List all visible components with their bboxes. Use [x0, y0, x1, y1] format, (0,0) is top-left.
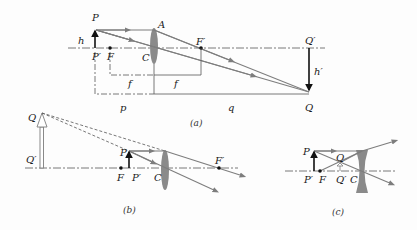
label-a: A: [157, 19, 165, 30]
label-f: F: [106, 51, 115, 62]
label-q-prime: Q′: [305, 35, 316, 46]
diagram-canvas: P h P′ F C A F′ Q′ h′ Q f f p q (a): [0, 0, 417, 230]
label-p: P: [91, 12, 99, 23]
virtual-rays-b: [42, 113, 165, 151]
label-focal-length-right: f: [173, 78, 180, 89]
label-q-prime-b: Q′: [26, 154, 37, 165]
label-c-b: C: [154, 172, 162, 183]
label-h-prime: h′: [314, 66, 323, 77]
focal-point-f-b: [119, 166, 123, 170]
focal-point-f-a: [108, 46, 112, 50]
caption-a: (a): [190, 118, 203, 128]
label-q-b: Q: [28, 112, 36, 123]
label-p-b: P: [119, 147, 127, 158]
label-p-prime-c: P′: [303, 174, 314, 185]
label-image-distance: q: [228, 102, 234, 113]
focal-point-f-prime-b: [217, 166, 221, 170]
diagram-b: Q Q′ P F P′ C F′ (b): [25, 112, 243, 215]
label-object-distance: p: [120, 102, 127, 113]
label-f-c: F: [318, 174, 327, 185]
label-q-prime-c: Q′: [336, 174, 347, 185]
label-focal-length-left: f: [127, 78, 134, 89]
diagram-c: P P′ F Q Q′ C (c): [285, 141, 397, 217]
label-f-b: F: [116, 172, 125, 183]
label-q: Q: [305, 102, 313, 113]
caption-c: (c): [332, 207, 345, 217]
label-p-prime-b: P′: [131, 172, 142, 183]
label-h: h: [78, 35, 84, 46]
label-f-prime: F′: [195, 36, 206, 47]
label-c: C: [142, 52, 150, 63]
label-q-c: Q: [336, 152, 344, 163]
virtual-image-arrow-b: [37, 113, 47, 168]
rays-b: [129, 151, 243, 191]
label-p-prime: P′: [91, 51, 102, 62]
label-p-c: P: [302, 146, 310, 157]
label-f-prime-b: F′: [214, 155, 225, 166]
diagram-a: P h P′ F C A F′ Q′ h′ Q f f p q (a): [68, 12, 325, 128]
label-c-c: C: [350, 174, 358, 185]
caption-b: (b): [123, 205, 136, 215]
lens-ray-diagrams: P h P′ F C A F′ Q′ h′ Q f f p q (a): [0, 0, 417, 230]
converging-lens-b: [161, 150, 169, 190]
focal-point-f-c: [318, 169, 322, 173]
virtual-image-arrow-c: [337, 163, 343, 171]
